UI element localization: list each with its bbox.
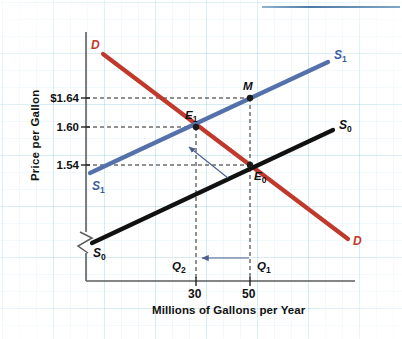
point-label-E1-text: E (185, 109, 193, 121)
curve-label-supply1-bottom: S1 (92, 180, 105, 195)
point-label-M: M (243, 81, 253, 93)
y-axis-break-symbol (78, 232, 92, 253)
curve-label-supply1-bottom-sub: 1 (100, 185, 105, 195)
quantity-label-Q1-text: Q (257, 260, 266, 272)
curve-label-supply0-top-sub: 0 (347, 124, 352, 134)
point-label-E0-sub: 0 (262, 175, 267, 185)
curve-label-supply0-bottom: S0 (93, 247, 106, 262)
curve-label-demand-top: D (91, 39, 100, 51)
supply-demand-figure: $1.64 1.60 1.54 30 50 Price per Gallon M… (0, 0, 402, 339)
curve-label-supply1-top-sub: 1 (342, 54, 347, 64)
supply-curve-S1 (90, 62, 328, 173)
guide-lines (86, 98, 250, 281)
y-tick-label-154: 1.54 (36, 160, 79, 172)
curve-label-supply1-top-text: S (334, 48, 342, 62)
curve-label-supply0-top-text: S (339, 118, 347, 132)
quantity-label-Q2-text: Q (172, 260, 181, 272)
supply-shift-arrow (189, 147, 228, 178)
quantity-label-Q1-sub: 1 (266, 265, 271, 275)
point-label-E1-sub: 1 (193, 114, 198, 124)
point-E0 (247, 162, 253, 168)
y-tick-label-160: 1.60 (36, 122, 79, 134)
point-label-E0-text: E (254, 170, 262, 182)
y-tick-label-164: $1.64 (36, 93, 79, 105)
point-label-E0: E0 (254, 171, 266, 185)
x-tick-label-30: 30 (188, 288, 201, 300)
curve-label-supply1-top: S1 (334, 49, 347, 64)
y-axis-title: Price per Gallon (30, 90, 42, 181)
curve-label-supply0-top: S0 (339, 119, 352, 134)
curve-label-demand-bottom: D (353, 235, 362, 247)
point-label-E1: E1 (185, 110, 197, 124)
curve-label-supply1-bottom-text: S (92, 179, 100, 193)
curve-label-supply0-bottom-text: S (93, 246, 101, 260)
point-E1 (193, 124, 199, 130)
quantity-label-Q1: Q1 (257, 261, 271, 275)
quantity-label-Q2: Q2 (172, 261, 186, 275)
demand-curve-D (103, 54, 348, 239)
quantity-label-Q2-sub: 2 (181, 265, 186, 275)
supply-curve-S0 (92, 130, 333, 243)
x-tick-label-50: 50 (242, 288, 255, 300)
curve-label-supply0-bottom-sub: 0 (101, 252, 106, 262)
x-axis-title: Millions of Gallons per Year (152, 305, 305, 317)
point-M (247, 95, 253, 101)
